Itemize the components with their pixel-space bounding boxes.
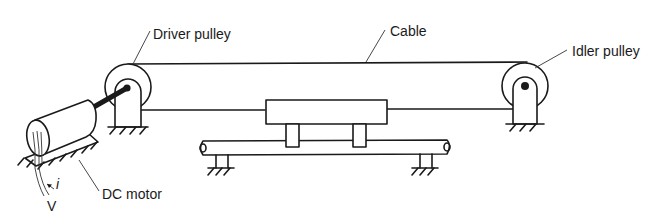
idler-ground-hatch <box>510 124 536 131</box>
dc-motor-label: DC motor <box>102 186 162 202</box>
driver-pulley-axle <box>123 84 130 91</box>
idler-pulley-label: Idler pulley <box>572 43 640 59</box>
voltage-label: V <box>47 198 57 214</box>
current-label: i <box>56 176 60 192</box>
cable-upper-run <box>128 62 527 64</box>
driver-ground-hatch <box>110 127 146 134</box>
idler-pulley-axle <box>521 82 529 90</box>
carriage-slider-left <box>286 124 299 147</box>
driver-pulley-leader <box>133 31 150 64</box>
cable-label: Cable <box>390 23 427 39</box>
cable-leader <box>366 30 385 62</box>
idler-pulley-leader <box>535 50 567 68</box>
carriage-slider-right <box>353 124 366 147</box>
rail-bar <box>201 140 450 155</box>
guide-rail <box>200 140 450 175</box>
driver-pulley-label: Driver pulley <box>153 26 231 42</box>
belt-drive-diagram: Driver pulley Cable Idler pulley DC moto… <box>0 0 651 217</box>
carriage-body <box>266 100 387 124</box>
dc-motor-leader <box>79 160 99 191</box>
idler-pulley <box>502 63 548 131</box>
